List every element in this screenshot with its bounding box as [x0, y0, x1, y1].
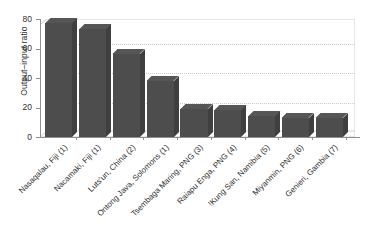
bar-face	[147, 81, 174, 137]
x-tick-mark	[177, 137, 178, 140]
x-tick-mark	[346, 137, 347, 140]
x-tick-mark	[245, 137, 246, 140]
bar	[248, 116, 275, 137]
bar-side	[106, 24, 111, 137]
x-tick-mark	[110, 137, 111, 140]
y-axis-line	[40, 19, 41, 137]
bar-side	[208, 104, 213, 137]
x-tick-mark	[211, 137, 212, 140]
bar-side	[174, 76, 179, 137]
x-tick-mark	[76, 137, 77, 140]
bar-side	[72, 18, 77, 137]
bar	[180, 109, 207, 137]
bar	[282, 118, 309, 137]
bar-face	[79, 29, 106, 137]
bar	[45, 23, 72, 137]
x-tick-mark	[143, 137, 144, 140]
bar-face	[248, 116, 275, 137]
bar-face	[282, 118, 309, 137]
bar	[79, 29, 106, 137]
bar-face	[214, 110, 241, 137]
x-tick-mark	[312, 137, 313, 140]
plot-area	[40, 19, 355, 137]
y-tick-label: 20	[16, 103, 32, 111]
bar	[113, 54, 140, 137]
y-tick-label: 60	[16, 44, 32, 52]
bar-face	[180, 109, 207, 137]
y-tick-label: 40	[16, 74, 32, 82]
x-tick-mark	[278, 137, 279, 140]
bar-face	[316, 118, 343, 137]
y-tick-label: 80	[16, 15, 32, 23]
bar-chart: Output–input ratio 020406080 Nasaqalau, …	[0, 0, 366, 236]
y-axis-ticks: 020406080	[14, 0, 32, 236]
x-tick-label: !Kung San, Namibia (5)	[207, 143, 272, 208]
bar	[214, 110, 241, 137]
x-tick-label: Raiapu Enga, PNG (4)	[175, 143, 238, 206]
y-tick-label: 0	[16, 133, 32, 141]
bar-side	[140, 49, 145, 137]
bar	[316, 118, 343, 137]
bar-face	[113, 54, 140, 137]
bar-face	[45, 23, 72, 137]
bar	[147, 81, 174, 137]
